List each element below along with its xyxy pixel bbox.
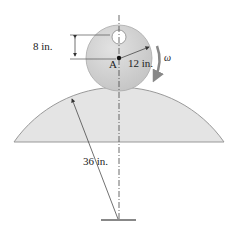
large-radius-label: 36 in.	[83, 155, 108, 167]
small-radius-label: 12 in.	[128, 57, 153, 69]
point-a-dot	[117, 56, 121, 60]
point-a-label: A	[109, 58, 117, 70]
rotation-arrow	[155, 46, 160, 78]
diagram: 8 in. A 12 in. ω 36 in.	[0, 0, 236, 228]
offset-label: 8 in.	[33, 40, 53, 52]
omega-label: ω	[164, 52, 171, 63]
